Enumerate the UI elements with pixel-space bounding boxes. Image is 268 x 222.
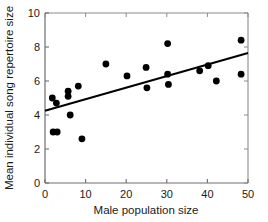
x-tick-label: 20: [120, 188, 132, 200]
x-tick-label: 0: [42, 188, 48, 200]
y-tick-label: 10: [28, 7, 40, 19]
y-tick-label: 4: [34, 109, 40, 121]
data-point: [144, 84, 151, 91]
data-point: [143, 64, 150, 71]
data-point: [53, 100, 60, 107]
data-point: [164, 71, 171, 78]
x-tick-label: 30: [161, 188, 173, 200]
x-tick-label: 10: [79, 188, 91, 200]
data-point: [213, 78, 220, 85]
scatter-plot: 01020304050 0246810 Male population size…: [0, 0, 268, 222]
x-tick-label: 50: [242, 188, 254, 200]
y-tick-label: 2: [34, 143, 40, 155]
y-tick-label: 0: [34, 177, 40, 189]
y-tick-label: 8: [34, 41, 40, 53]
y-tick-label: 6: [34, 75, 40, 87]
x-tick-label: 40: [201, 188, 213, 200]
data-point: [124, 73, 131, 80]
chart-figure: 01020304050 0246810 Male population size…: [0, 0, 268, 222]
figure-background: [0, 0, 268, 222]
data-point: [103, 61, 110, 68]
x-axis-label: Male population size: [94, 204, 199, 216]
data-point: [196, 67, 203, 74]
data-point: [205, 62, 212, 69]
y-axis-label: Mean individual song repertoire size: [3, 6, 15, 190]
data-point: [238, 71, 245, 78]
data-point: [75, 83, 82, 90]
data-point: [65, 93, 72, 100]
data-point: [165, 81, 172, 88]
data-point: [54, 129, 61, 136]
data-point: [238, 37, 245, 44]
data-point: [164, 40, 171, 47]
data-point: [79, 135, 86, 142]
data-point: [67, 112, 74, 119]
